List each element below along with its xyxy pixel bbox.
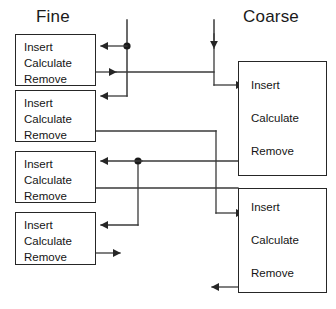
operation-remove: Remove bbox=[24, 189, 72, 204]
operation-list: Insert Calculate Remove bbox=[24, 96, 72, 143]
operation-insert: Insert bbox=[24, 40, 72, 55]
column-title-fine: Fine bbox=[36, 7, 70, 27]
diagram-canvas: Fine Coarse Insert Calculate Remove Inse… bbox=[0, 0, 336, 309]
coarse-process-box-2[interactable]: Insert Calculate Remove bbox=[238, 188, 327, 293]
operation-calculate: Calculate bbox=[251, 112, 299, 125]
operation-calculate: Calculate bbox=[24, 234, 72, 249]
fine-process-box-3[interactable]: Insert Calculate Remove bbox=[15, 151, 96, 203]
fine-process-box-4[interactable]: Insert Calculate Remove bbox=[15, 212, 96, 265]
operation-insert: Insert bbox=[24, 157, 72, 172]
operation-calculate: Calculate bbox=[24, 56, 72, 71]
operation-calculate: Calculate bbox=[24, 112, 72, 127]
operation-remove: Remove bbox=[24, 250, 72, 265]
operation-remove: Remove bbox=[24, 72, 72, 87]
operation-list: Insert Calculate Remove bbox=[24, 157, 72, 204]
operation-list: Insert Calculate Remove bbox=[24, 218, 72, 265]
operation-insert: Insert bbox=[24, 96, 72, 111]
operation-list: Insert Calculate Remove bbox=[24, 40, 72, 87]
operation-remove: Remove bbox=[251, 145, 299, 158]
operation-list: Insert Calculate Remove bbox=[251, 189, 299, 292]
column-title-coarse: Coarse bbox=[243, 7, 299, 27]
operation-insert: Insert bbox=[251, 79, 299, 92]
operation-remove: Remove bbox=[251, 267, 299, 280]
operation-calculate: Calculate bbox=[251, 234, 299, 247]
operation-calculate: Calculate bbox=[24, 173, 72, 188]
operation-remove: Remove bbox=[24, 128, 72, 143]
coarse-process-box-1[interactable]: Insert Calculate Remove bbox=[238, 61, 327, 176]
operation-list: Insert Calculate Remove bbox=[251, 62, 299, 175]
operation-insert: Insert bbox=[251, 201, 299, 214]
fine-process-box-1[interactable]: Insert Calculate Remove bbox=[15, 34, 96, 86]
fine-process-box-2[interactable]: Insert Calculate Remove bbox=[15, 90, 96, 142]
operation-insert: Insert bbox=[24, 218, 72, 233]
